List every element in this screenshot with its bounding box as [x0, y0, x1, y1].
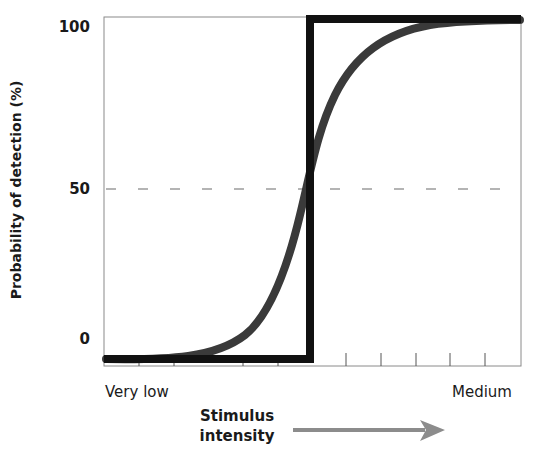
y-tick-0: 0	[50, 332, 90, 347]
x-label-very-low: Very low	[105, 385, 169, 400]
y-tick-100: 100	[50, 20, 90, 35]
x-axis-title-line1: Stimulus	[196, 406, 278, 426]
x-axis-title: Stimulus intensity	[196, 406, 278, 446]
y-axis-title: Probability of detection (%)	[8, 81, 24, 300]
y-tick-50: 50	[50, 182, 90, 197]
x-axis-title-line2: intensity	[196, 426, 278, 446]
intensity-arrow-icon	[293, 420, 445, 441]
x-label-medium: Medium	[452, 385, 512, 400]
